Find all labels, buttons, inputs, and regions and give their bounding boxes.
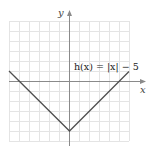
graph: y x h(x) = |x| − 5 (0, 0, 151, 152)
x-axis-label: x (140, 84, 146, 95)
y-axis-label: y (57, 7, 64, 18)
function-label: h(x) = |x| − 5 (74, 61, 139, 73)
y-axis-arrow-icon (67, 10, 72, 16)
